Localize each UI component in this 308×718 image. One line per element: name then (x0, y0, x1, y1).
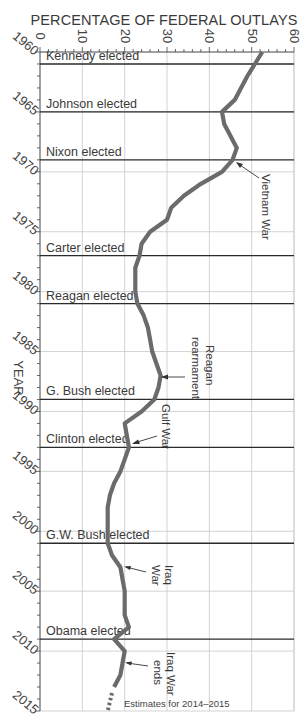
estimate-dashed-line (108, 693, 112, 711)
vietnam-war-label: Vietnam War (260, 174, 272, 240)
chart: 0102030405060196019651970197519801985199… (0, 0, 308, 718)
axis-ticks: 0102030405060196019651970197519801985199… (10, 28, 302, 717)
election-label: Nixon elected (46, 145, 122, 159)
defense-outlays-line (108, 52, 263, 687)
annotation-iraq-ends: Iraq War ends (125, 652, 177, 696)
y-axis-label: YEAR (11, 360, 26, 395)
annotation-iraq: Iraq War (124, 565, 175, 586)
gulf-war-label: Gulf War (160, 404, 172, 449)
election-label: G.W. Bush elected (46, 528, 150, 542)
x-tick-label: 50 (245, 29, 260, 43)
y-tick-label: 1970 (10, 148, 42, 178)
chart-title: PERCENTAGE OF FEDERAL OUTLAYS (31, 12, 298, 28)
reagan-label-line2: rearmament (190, 337, 202, 400)
iraq-war-ends-label-line2: ends (152, 660, 164, 685)
y-tick-label: 1980 (10, 268, 42, 298)
y-tick-label: 2005 (10, 567, 42, 597)
election-label: G. Bush elected (46, 384, 135, 398)
y-tick-label: 1995 (10, 448, 42, 478)
y-tick-label: 2000 (10, 507, 42, 537)
y-tick-label: 1985 (10, 328, 42, 358)
election-label: Kennedy elected (46, 49, 139, 63)
x-tick-label: 40 (202, 29, 217, 43)
election-label: Reagan elected (46, 289, 134, 303)
election-label: Johnson elected (46, 97, 137, 111)
estimates-note: Estimates for 2014–2015 (124, 698, 230, 709)
y-tick-label: 1975 (10, 208, 42, 238)
election-label: Carter elected (46, 241, 125, 255)
annotation-reagan: Reagan rearmament (161, 337, 216, 400)
iraq-war-label-line2: War (150, 565, 162, 586)
x-tick-label: 60 (287, 29, 302, 43)
reagan-label-line1: Reagan (204, 345, 216, 385)
y-tick-label: 1965 (10, 88, 42, 118)
y-tick-label: 2015 (10, 687, 42, 717)
x-tick-label: 0 (33, 32, 48, 39)
iraq-war-label-line1: Iraq (163, 565, 175, 585)
election-label: Clinton elected (46, 432, 129, 446)
annotation-gulf: Gulf War (132, 404, 172, 449)
x-tick-label: 10 (75, 29, 90, 43)
x-tick-label: 20 (118, 29, 133, 43)
annotation-vietnam: Vietnam War (236, 162, 272, 240)
data-curve (108, 52, 263, 711)
y-tick-label: 2010 (10, 627, 42, 657)
iraq-war-ends-label-line1: Iraq War (165, 652, 177, 696)
x-tick-label: 30 (160, 29, 175, 43)
